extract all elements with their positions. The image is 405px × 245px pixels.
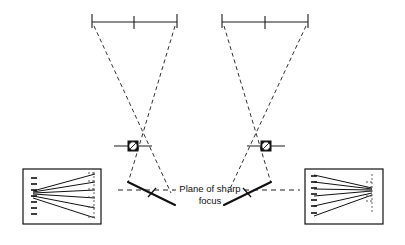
right-film-plane <box>222 14 308 29</box>
diagram-canvas: Plane of sharp focus <box>0 0 405 245</box>
diagram-root: Plane of sharp focus <box>0 0 405 245</box>
right-ray-bundle <box>224 26 306 193</box>
caption-line-2: focus <box>199 195 222 206</box>
left-ray-b <box>128 26 175 183</box>
left-film-plane <box>92 14 177 29</box>
left-lens <box>114 141 152 152</box>
left-setup <box>92 14 177 205</box>
right-inset <box>305 169 383 224</box>
right-setup <box>222 14 308 205</box>
right-lens <box>247 141 285 152</box>
left-inset <box>23 169 101 224</box>
caption-line-1: Plane of sharp <box>179 183 240 194</box>
right-ray-a <box>224 26 271 183</box>
left-ray-bundle <box>94 26 175 193</box>
